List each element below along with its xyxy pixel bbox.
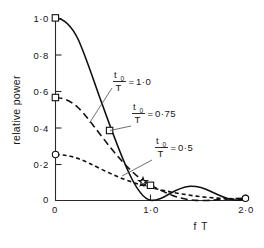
x-axis-title: f T (193, 221, 208, 232)
y-axis-title: relative power (10, 75, 22, 145)
marker-square-origin-solid (52, 15, 58, 21)
annotation-2-equals: = (148, 108, 154, 119)
marker-square-tail-longdash (147, 182, 153, 188)
annotation-1-value: 1·0 (136, 76, 151, 87)
marker-circle-tail-longdash (242, 195, 248, 201)
y-tick-label-02: 0·2 (33, 159, 49, 170)
y-tick-label-1: 1·0 (33, 13, 49, 24)
y-tick-label-08: 0·8 (33, 50, 49, 61)
annotation-3-denominator: T (158, 148, 164, 159)
x-tick-label-10: 1·0 (143, 204, 159, 215)
annotation-1-denominator: T (116, 82, 122, 93)
annotation-3-equals: = (171, 142, 177, 153)
marker-circle-origin-shortdash (52, 151, 58, 157)
y-tick-label-04: 0·4 (33, 123, 49, 134)
annotation-2-value: 0·75 (155, 108, 176, 119)
annotation-3-numerator: t (156, 135, 159, 146)
annotation-2-denominator: T (135, 114, 141, 125)
marker-square-origin-longdash (52, 94, 58, 100)
chart-figure: 1·0 0·8 0·6 0·4 0·2 0 0 1·0 2·0 f T rela… (0, 0, 264, 248)
y-tick-label-0: 0 (43, 194, 49, 205)
annotation-1-subscript: 0 (121, 75, 125, 82)
annotation-3-subscript: 0 (163, 141, 167, 148)
annotation-3-value: 0·5 (178, 142, 193, 153)
x-tick-label-0: 0 (52, 204, 58, 215)
annotation-2-numerator: t (133, 101, 136, 112)
y-tick-label-06: 0·6 (33, 86, 49, 97)
relative-power-chart: 1·0 0·8 0·6 0·4 0·2 0 0 1·0 2·0 f T rela… (0, 0, 264, 248)
annotation-1-equals: = (129, 76, 135, 87)
x-tick-label-20: 2·0 (238, 204, 254, 215)
annotation-2-subscript: 0 (140, 107, 144, 114)
annotation-1-numerator: t (114, 69, 117, 80)
